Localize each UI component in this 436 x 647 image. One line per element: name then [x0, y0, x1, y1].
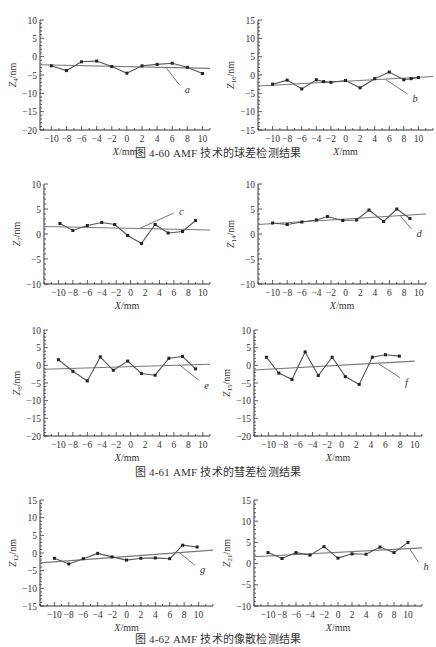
annotation-label: h [424, 561, 429, 572]
annotation-label: d [416, 228, 422, 239]
x-tick-label: 8 [186, 288, 191, 298]
data-point-marker [167, 232, 170, 235]
y-axis-label: Z16/nm [225, 61, 238, 89]
x-tick-label: 4 [372, 288, 377, 298]
data-point-marker [80, 60, 83, 63]
chart-svg-c: 1050−5−10−10−8−6−4−20246810X/mmZ7/nmc [0, 172, 218, 316]
annotation-label: f [405, 377, 410, 388]
figure-b: 151050−5−10−15−10−8−6−4−20246810X/mmZ16/… [218, 8, 436, 162]
data-point-marker [267, 551, 270, 554]
caption-fig-4-62: 图 4-62 AMF 技术的像散检测结果 [0, 630, 436, 646]
y-tick-label: 10 [242, 517, 252, 527]
y-axis-label: Z15/nm [221, 369, 234, 397]
data-point-marker [168, 557, 171, 560]
data-point-marker [126, 360, 129, 363]
fit-line [254, 361, 415, 370]
y-tick-label: 5 [246, 343, 251, 353]
data-point-marker [344, 79, 347, 82]
fit-line [254, 548, 422, 557]
y-tick-label: −5 [241, 379, 251, 389]
x-tick-label: −4 [311, 134, 321, 144]
data-point-marker [140, 372, 143, 375]
x-tick-label: 10 [198, 288, 208, 298]
y-tick-label: −10 [26, 396, 41, 406]
figure-h: 151050−5−10−10−8−6−4−20246810X/mmZ21/nmh [218, 488, 436, 638]
x-tick-label: −2 [319, 610, 329, 620]
data-point-marker [384, 353, 387, 356]
x-tick-label: −8 [277, 610, 287, 620]
y-tick-label: −10 [22, 89, 37, 99]
x-tick-label: 4 [157, 288, 162, 298]
x-tick-label: −10 [265, 134, 280, 144]
y-tick-label: 0 [250, 71, 255, 81]
data-point-marker [154, 223, 157, 226]
x-tick-label: −4 [307, 440, 317, 450]
chart-svg-f: 1050−5−10−15−20−10−8−6−4−20246810X/mmZ15… [218, 318, 436, 468]
annotation-pointer [139, 213, 174, 229]
y-tick-label: 5 [36, 343, 41, 353]
figure-f: 1050−5−10−15−20−10−8−6−4−20246810X/mmZ15… [218, 318, 436, 468]
x-tick-label: 0 [343, 288, 348, 298]
data-point-marker [393, 551, 396, 554]
x-tick-label: 6 [387, 134, 392, 144]
data-point-marker [140, 242, 143, 245]
data-point-marker [337, 557, 340, 560]
data-point-marker [382, 220, 385, 223]
data-point-marker [286, 223, 289, 226]
x-tick-label: 8 [398, 440, 403, 450]
data-point-marker [300, 87, 303, 90]
x-tick-label: −10 [44, 134, 59, 144]
y-tick-label: −20 [236, 432, 251, 442]
measured-line [60, 221, 196, 244]
x-tick-label: 0 [124, 610, 129, 620]
figure-g: 151050−5−10−15−10−8−6−4−20246810X/mmZ12/… [0, 488, 218, 638]
x-tick-label: 8 [401, 134, 406, 144]
y-tick-label: 0 [32, 52, 37, 62]
x-tick-label: 8 [186, 440, 191, 450]
data-point-marker [181, 355, 184, 358]
x-tick-label: 4 [372, 134, 377, 144]
data-point-marker [111, 555, 114, 558]
y-tick-label: 10 [32, 180, 42, 190]
data-point-marker [181, 544, 184, 547]
x-tick-label: 0 [128, 288, 133, 298]
y-tick-label: 0 [246, 361, 251, 371]
data-point-marker [395, 208, 398, 211]
y-tick-label: 0 [32, 549, 37, 559]
x-tick-label: −6 [78, 610, 88, 620]
x-tick-label: 2 [354, 440, 359, 450]
data-point-marker [359, 86, 362, 89]
figure-e: 1050−5−10−15−20−10−8−6−4−20246810X/mmZ8/… [0, 318, 218, 468]
data-point-marker [95, 60, 98, 63]
x-tick-label: −2 [326, 134, 336, 144]
data-point-marker [368, 209, 371, 212]
data-point-marker [344, 375, 347, 378]
x-tick-label: −2 [111, 440, 121, 450]
annotation-label: b [412, 93, 417, 104]
x-tick-label: 6 [378, 610, 383, 620]
data-point-marker [125, 72, 128, 75]
x-tick-label: 2 [358, 288, 363, 298]
data-point-marker [295, 551, 298, 554]
axes: 151050−5−10−10−8−6−4−20246810 [236, 496, 422, 621]
data-point-marker [82, 557, 85, 560]
y-tick-label: −15 [240, 126, 255, 136]
chart-svg-a: 1050−5−10−15−20−10−8−6−4−20246810X/mmZ4/… [0, 8, 218, 162]
x-tick-label: 10 [414, 134, 424, 144]
x-tick-label: 0 [125, 134, 130, 144]
x-tick-label: 10 [198, 440, 208, 450]
y-tick-label: −10 [240, 280, 255, 290]
x-axis-label: X/mm [325, 452, 351, 463]
data-point-marker [141, 64, 144, 67]
data-point-marker [371, 356, 374, 359]
x-tick-label: −2 [111, 288, 121, 298]
x-tick-label: 2 [350, 610, 355, 620]
x-tick-label: 4 [364, 610, 369, 620]
data-point-marker [154, 374, 157, 377]
x-tick-label: 0 [343, 134, 348, 144]
x-tick-label: −8 [282, 134, 292, 144]
y-tick-label: 15 [246, 16, 256, 26]
data-point-marker [326, 215, 329, 218]
x-tick-label: −6 [297, 288, 307, 298]
data-point-marker [271, 83, 274, 86]
